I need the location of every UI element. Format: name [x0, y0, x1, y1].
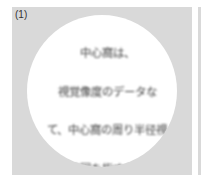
text-line: て、中心窩の周り半径視: [27, 124, 177, 137]
blurred-text-block: 中心窩は、 視覚像度のデータな て、中心窩の周り半径視 までの範囲を指すものとす…: [27, 21, 177, 167]
figure-panel: (1) 中心窩は、 視覚像度のデータな て、中心窩の周り半径視 までの範囲を指す…: [12, 7, 192, 175]
text-line: 中心窩は、: [27, 47, 177, 60]
central-vision-window: 中心窩は、 視覚像度のデータな て、中心窩の周り半径視 までの範囲を指すものとす…: [27, 15, 177, 167]
text-line: 視覚像度のデータな: [27, 86, 177, 99]
adjacent-panel-edge: [198, 7, 201, 175]
text-line: までの範囲を指すものとする: [27, 163, 177, 167]
panel-label: (1): [15, 9, 27, 20]
